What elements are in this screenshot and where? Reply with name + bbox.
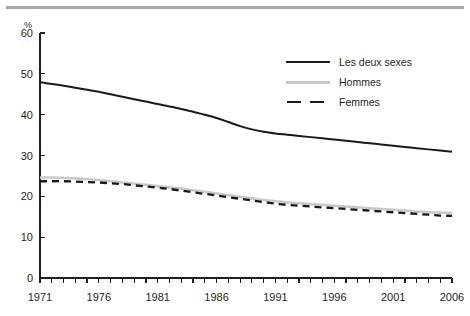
legend-dash-segment <box>310 101 324 103</box>
plot-area <box>0 0 470 316</box>
figure-chart: % 6050403020100 197119761981198619911996… <box>0 0 470 316</box>
legend-item: Femmes <box>286 92 464 112</box>
legend-line-segment <box>286 81 330 84</box>
chart-legend: Les deux sexesHommesFemmes <box>286 52 464 112</box>
legend-swatch-icon <box>286 96 330 108</box>
legend-item: Hommes <box>286 72 464 92</box>
legend-item-label: Hommes <box>339 76 381 88</box>
legend-swatch-icon <box>286 56 330 68</box>
legend-dash-segment <box>287 101 301 103</box>
legend-item-label: Femmes <box>339 96 380 108</box>
legend-swatch-icon <box>286 76 330 88</box>
legend-item-label: Les deux sexes <box>339 56 412 68</box>
legend-line-segment <box>286 61 330 63</box>
legend-item: Les deux sexes <box>286 52 464 72</box>
